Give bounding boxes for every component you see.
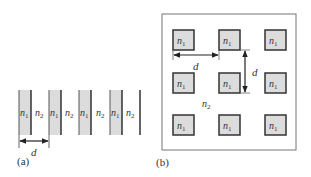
cell-n1: n1 <box>265 73 286 93</box>
figure-canvas: n1 n2 n1 n2 n1 n2 n1 n2 d (a) n1 n1 n1 n… <box>0 0 311 177</box>
period-label-d: d <box>31 146 37 158</box>
label-n2: n2 <box>65 107 74 120</box>
cell-n1: n1 <box>265 30 286 50</box>
panel-b-lattice: n1 n1 n1 n1 n1 n1 n1 n1 n1 n2 d d (b) <box>156 14 296 169</box>
label-n2: n2 <box>126 107 135 120</box>
vertical-period-label: d <box>252 66 258 78</box>
cell-n1: n1 <box>265 115 286 135</box>
caption-b: (b) <box>156 156 169 169</box>
cell-n1: n1 <box>219 73 240 93</box>
cell-n1: n1 <box>219 115 240 135</box>
cell-n1: n1 <box>173 30 194 50</box>
label-n2: n2 <box>96 107 105 120</box>
cell-n1: n1 <box>173 115 194 135</box>
label-n2: n2 <box>35 107 44 120</box>
caption-a: (a) <box>17 155 30 168</box>
panel-a-multilayer: n1 n2 n1 n2 n1 n2 n1 n2 d (a) <box>17 90 140 168</box>
horizontal-period-label: d <box>193 60 199 72</box>
cell-n1: n1 <box>219 30 240 50</box>
cell-n1: n1 <box>173 73 194 93</box>
